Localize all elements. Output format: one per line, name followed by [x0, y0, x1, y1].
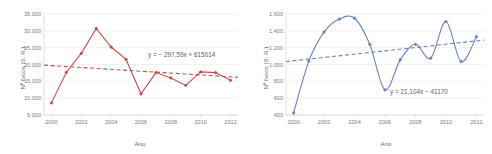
left-yaxis-ticklabels: 5.00010.00015.00020.00025.00030.00035.00… [24, 11, 41, 118]
figure-two-panel-charts: 5.00010.00015.00020.00025.00030.00035.00… [0, 0, 492, 154]
svg-text:2006: 2006 [135, 119, 147, 125]
svg-text:2008: 2008 [409, 119, 421, 125]
svg-text:15.000: 15.000 [24, 78, 41, 84]
svg-text:35.000: 35.000 [24, 11, 41, 17]
svg-text:2008: 2008 [165, 119, 177, 125]
left-trendline [44, 65, 238, 77]
left-data-series-line [51, 28, 230, 102]
left-chart-svg: 5.00010.00015.00020.00025.00030.00035.00… [0, 0, 246, 154]
chart-panel-left: 5.00010.00015.00020.00025.00030.00035.00… [0, 0, 246, 154]
svg-text:2000: 2000 [45, 119, 57, 125]
svg-text:1.400: 1.400 [269, 28, 283, 34]
svg-text:2012: 2012 [470, 119, 482, 125]
svg-text:2010: 2010 [440, 119, 452, 125]
svg-text:1.000: 1.000 [269, 62, 283, 68]
svg-text:800: 800 [274, 78, 283, 84]
left-xaxis-title: Ano [134, 140, 146, 147]
chart-panel-right: 4006008001.0001.2001.4001.600 2000200220… [246, 0, 492, 154]
svg-text:5.000: 5.000 [27, 112, 41, 118]
right-yaxis-title: Nº focos (S. R.) [262, 47, 269, 90]
svg-text:600: 600 [274, 95, 283, 101]
svg-text:30.000: 30.000 [24, 28, 41, 34]
svg-text:2002: 2002 [75, 119, 87, 125]
svg-text:2004: 2004 [105, 119, 117, 125]
svg-text:1.600: 1.600 [269, 11, 283, 17]
svg-text:10.000: 10.000 [24, 95, 41, 101]
left-xaxis-ticklabels: 2000200220042006200820102012 [45, 115, 237, 125]
svg-text:2000: 2000 [287, 119, 299, 125]
svg-text:2002: 2002 [318, 119, 330, 125]
svg-text:2012: 2012 [224, 119, 236, 125]
right-gridlines [286, 14, 484, 115]
left-regression-equation: y = − 297,59x + 615014 [148, 51, 216, 59]
svg-text:2010: 2010 [194, 119, 206, 125]
svg-text:20.000: 20.000 [24, 62, 41, 68]
right-xaxis-title: Ano [380, 140, 392, 147]
right-regression-equation: y = 21,104x − 41170 [390, 88, 448, 96]
right-xaxis-ticklabels: 2000200220042006200820102012 [287, 115, 482, 125]
left-data-markers [50, 27, 233, 105]
svg-text:25.000: 25.000 [24, 45, 41, 51]
left-yaxis-title: Nº focos (S. R.) [19, 47, 26, 90]
right-chart-svg: 4006008001.0001.2001.4001.600 2000200220… [246, 0, 492, 154]
svg-text:1.200: 1.200 [269, 45, 283, 51]
right-yaxis-ticklabels: 4006008001.0001.2001.4001.600 [269, 11, 283, 118]
svg-text:400: 400 [274, 112, 283, 118]
svg-text:2006: 2006 [379, 119, 391, 125]
svg-text:2004: 2004 [348, 119, 360, 125]
